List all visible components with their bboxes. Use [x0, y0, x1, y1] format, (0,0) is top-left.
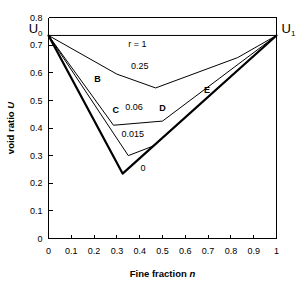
y-axis-title: void ratio U [5, 101, 16, 154]
y-tick-label: 0.6 [30, 68, 43, 78]
x-tick-label: 1 [274, 246, 279, 256]
axes [49, 18, 277, 239]
x-tick-label: 0.4 [133, 246, 146, 256]
x-tick-label: 0.1 [65, 246, 78, 256]
curve-point-label: D [159, 103, 166, 113]
axis-ticks [49, 18, 277, 239]
curve-value-label: 0.25 [131, 61, 149, 71]
curve-value-label: r = 1 [128, 39, 146, 49]
tick-labels: 00.10.20.30.40.50.60.70.800.10.20.30.40.… [30, 13, 279, 256]
curve-point-label: E [204, 85, 210, 95]
curve-point-label: B [94, 74, 101, 84]
curve-value-label: 0.06 [125, 102, 143, 112]
chart-figure: 00.10.20.30.40.50.60.70.800.10.20.30.40.… [0, 0, 307, 288]
x-tick-label: 0.9 [247, 246, 260, 256]
y-tick-label: 0.5 [30, 96, 43, 106]
x-tick-label: 0.3 [111, 246, 124, 256]
x-tick-label: 0 [46, 246, 51, 256]
x-tick-label: 0.8 [225, 246, 238, 256]
curve-value-label: 0 [141, 163, 146, 173]
y-tick-label: 0.3 [30, 151, 43, 161]
curve-point-label: C [113, 105, 120, 115]
endpoint-label-u1: U1 [282, 21, 296, 38]
y-tick-label: 0.2 [30, 178, 43, 188]
y-tick-label: 0 [37, 234, 42, 244]
axis-spine [49, 18, 277, 239]
x-tick-label: 0.5 [156, 246, 169, 256]
curve-value-label: 0.015 [122, 129, 145, 139]
y-tick-label: 0.4 [30, 123, 43, 133]
y-tick-label: 0.7 [30, 40, 43, 50]
x-tick-label: 0.6 [179, 246, 192, 256]
void-ratio-chart: 00.10.20.30.40.50.60.70.800.10.20.30.40.… [0, 0, 307, 288]
y-tick-label: 0.1 [30, 206, 43, 216]
x-tick-label: 0.2 [88, 246, 101, 256]
endpoint-label-u0: U0 [29, 21, 43, 38]
x-axis-title: Fine fraction n [130, 268, 196, 279]
x-tick-label: 0.7 [202, 246, 215, 256]
